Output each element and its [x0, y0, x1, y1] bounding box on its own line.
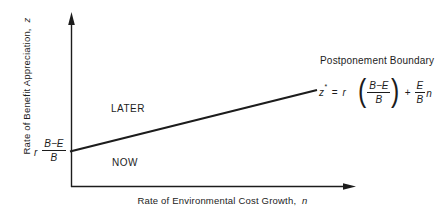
postponement-boundary-figure: Rate of Benefit Appreciation, z r B−E B …: [0, 0, 443, 211]
later-region-label: LATER: [111, 103, 145, 114]
equation-variable: n: [426, 88, 432, 99]
y-axis-label-text: Rate of Benefit Appreciation,: [21, 28, 32, 154]
y-axis-arrowhead-icon: [68, 12, 75, 25]
equation-fraction-2-numerator: E: [415, 80, 426, 93]
boundary-line: [70, 90, 317, 152]
now-region-label: NOW: [112, 157, 138, 168]
equation-lhs-superscript: *: [325, 83, 328, 90]
boundary-equation: z* = r ( B−E B ) + E B n: [319, 74, 432, 111]
intercept-fraction: B−E B: [42, 138, 65, 163]
x-axis-arrowhead-icon: [343, 183, 356, 190]
equation-lhs: z*: [319, 86, 327, 98]
equation-coefficient: r: [343, 87, 346, 98]
equation-equals: =: [332, 87, 338, 98]
equation-fraction-2-denominator: B: [417, 93, 424, 105]
equation-open-paren: (: [358, 78, 366, 104]
postponement-boundary-title: Postponement Boundary: [320, 55, 434, 66]
intercept-fraction-denominator: B: [51, 151, 58, 163]
equation-lhs-base: z: [319, 88, 324, 99]
equation-fraction-1-denominator: B: [376, 93, 383, 105]
intercept-label: r B−E B: [34, 138, 66, 163]
intercept-coefficient: r: [34, 147, 37, 158]
intercept-fraction-numerator: B−E: [42, 138, 65, 151]
equation-fraction-2: E B: [415, 80, 426, 105]
equation-plus: +: [405, 87, 411, 98]
equation-fraction-1-numerator: B−E: [367, 80, 390, 93]
x-axis-label-text: Rate of Environmental Cost Growth,: [137, 195, 296, 206]
y-axis-label: Rate of Benefit Appreciation, z: [21, 17, 32, 154]
x-axis-label: Rate of Environmental Cost Growth, n: [70, 195, 375, 206]
equation-fraction-1: B−E B: [367, 80, 390, 105]
y-axis-variable: z: [21, 17, 32, 22]
equation-close-paren: ): [391, 78, 399, 104]
x-axis-variable: n: [302, 195, 307, 206]
